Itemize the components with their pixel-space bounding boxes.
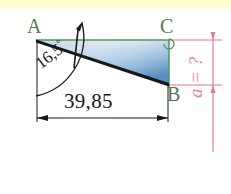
dim-arrow-right bbox=[157, 115, 168, 121]
vertex-label-c: C bbox=[160, 16, 173, 36]
geometry-diagram: A C B 16,5° 39,85 a = ? bbox=[0, 0, 231, 194]
vertex-label-b: B bbox=[167, 84, 180, 104]
top-yellow-band bbox=[0, 0, 231, 7]
pink-arrow-top bbox=[210, 32, 215, 40]
top-yellow-band-fade bbox=[0, 7, 231, 12]
angle-arc-arrowhead bbox=[76, 21, 83, 32]
base-dimension-label: 39,85 bbox=[64, 91, 113, 112]
pink-arrow-bottom bbox=[210, 85, 215, 93]
dim-arrow-left bbox=[37, 115, 48, 121]
unknown-dimension-label: a = ? bbox=[186, 57, 205, 98]
vertex-label-a: A bbox=[27, 16, 41, 36]
